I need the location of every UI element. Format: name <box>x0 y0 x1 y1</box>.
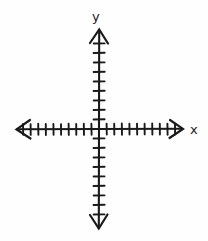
axes-drawing <box>0 0 208 241</box>
y-axis-label: y <box>92 10 100 23</box>
x-axis-label: x <box>190 123 198 136</box>
coordinate-plane-figure: y x <box>0 0 208 241</box>
axes-group <box>17 30 184 229</box>
